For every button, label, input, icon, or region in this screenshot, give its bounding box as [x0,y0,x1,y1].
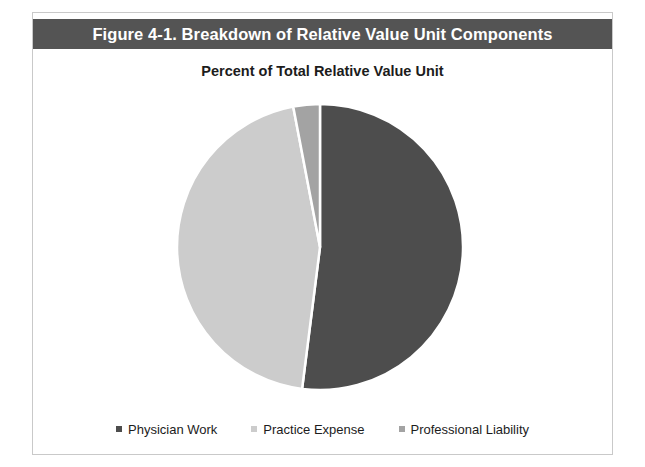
legend-item[interactable]: Physician Work [116,422,217,437]
legend-item-label: Practice Expense [263,422,364,437]
legend-swatch-icon [399,426,405,432]
legend-swatch-icon [116,426,122,432]
legend-item[interactable]: Practice Expense [251,422,364,437]
legend-item[interactable]: Professional Liability [399,422,530,437]
chart-legend: Physician WorkPractice ExpenseProfession… [33,418,612,440]
figure-title-bar: Figure 4-1. Breakdown of Relative Value … [33,19,612,49]
chart-subtitle: Percent of Total Relative Value Unit [33,63,612,79]
figure-root: Figure 4-1. Breakdown of Relative Value … [0,0,645,467]
pie-slice [302,104,463,390]
pie-slice-group [177,104,463,390]
legend-item-label: Professional Liability [411,422,530,437]
figure-title: Figure 4-1. Breakdown of Relative Value … [92,25,552,44]
pie-chart [33,90,612,405]
pie-chart-svg [33,90,612,405]
pie-slice [177,107,320,389]
legend-swatch-icon [251,426,257,432]
legend-item-label: Physician Work [128,422,217,437]
